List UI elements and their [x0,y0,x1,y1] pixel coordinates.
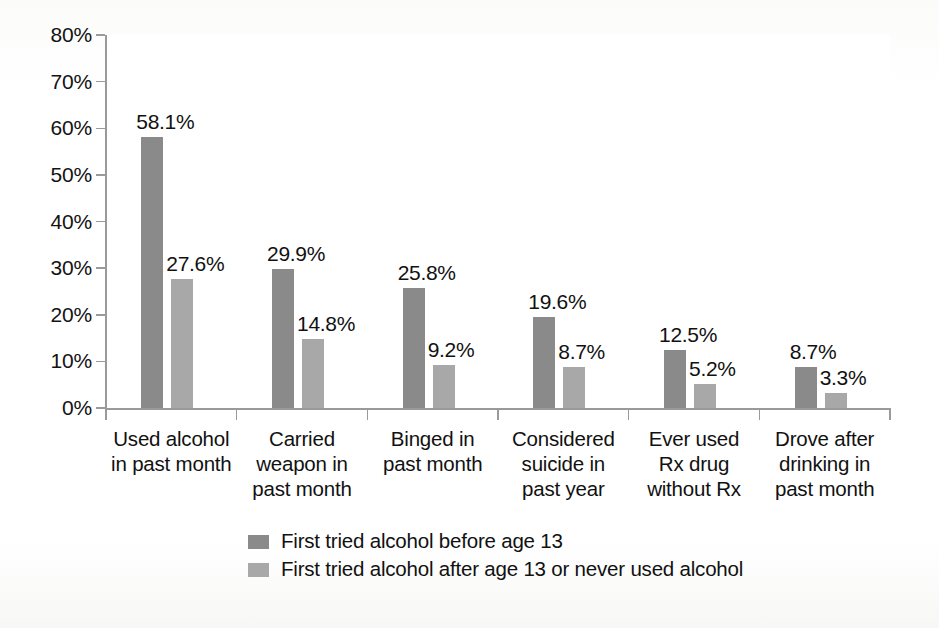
legend-swatch-icon [248,563,269,577]
category-label-line: Rx drug [621,451,768,476]
category-label: Consideredsuicide inpast year [490,426,637,501]
bar [694,384,716,408]
category-label-line: weapon in [229,451,376,476]
x-axis-tick [236,409,238,420]
bar-value-label: 3.3% [820,367,867,388]
bar-value-label: 8.7% [790,341,837,362]
bar-value-label: 9.2% [428,339,475,360]
category-label: Carriedweapon inpast month [229,426,376,501]
category-label-line: Ever used [621,426,768,451]
legend-item[interactable]: First tried alcohol before age 13 [248,529,743,554]
category-label: Used alcoholin past month [98,426,245,476]
x-axis-tick [628,409,630,420]
category-label-line: in past month [98,451,245,476]
category-label-line: Carried [229,426,376,451]
category-label-line: past month [751,476,898,501]
category-label-line: Considered [490,426,637,451]
legend-item[interactable]: First tried alcohol after age 13 or neve… [248,557,743,582]
bar-value-label: 5.2% [689,358,736,379]
x-axis-tick [105,409,107,420]
category-label-line: Drove after [751,426,898,451]
bar [302,339,324,408]
category-label-line: past year [490,476,637,501]
bar-value-label: 8.7% [558,341,605,362]
x-axis-tick [759,409,761,420]
category-label-line: drinking in [751,451,898,476]
chart-legend: First tried alcohol before age 13 First … [248,529,743,585]
bar [171,279,193,408]
x-axis-tick [497,409,499,420]
bar-value-label: 19.6% [528,291,586,312]
category-label-line: Binged in [359,426,506,451]
legend-item-label: First tried alcohol after age 13 or neve… [281,559,743,580]
scan-artifact [290,612,910,621]
category-label-line: suicide in [490,451,637,476]
category-label-line: Used alcohol [98,426,245,451]
category-label-line: past month [229,476,376,501]
bar-value-label: 58.1% [136,111,194,132]
bar-value-label: 25.8% [398,262,456,283]
chart-figure: 80%70%60%50%40%30%20%10%0% 58.1%27.6%29.… [0,0,939,628]
x-axis-tick [889,409,891,420]
category-label-line: without Rx [621,476,768,501]
bar [403,288,425,408]
category-label: Binged inpast month [359,426,506,476]
bar [433,365,455,408]
legend-item-label: First tried alcohol before age 13 [281,531,563,552]
bar [141,137,163,408]
bar [563,367,585,408]
x-axis-tick [367,409,369,420]
bar [533,317,555,408]
category-label: Ever usedRx drugwithout Rx [621,426,768,501]
bar [795,367,817,408]
bar [664,350,686,408]
bar-value-label: 12.5% [659,324,717,345]
category-label-line: past month [359,451,506,476]
bar-value-label: 27.6% [166,253,224,274]
bar [272,269,294,408]
bar [825,393,847,408]
bar-value-label: 14.8% [297,313,355,334]
bar-value-label: 29.9% [267,243,325,264]
category-label: Drove afterdrinking inpast month [751,426,898,501]
legend-swatch-icon [248,535,269,549]
